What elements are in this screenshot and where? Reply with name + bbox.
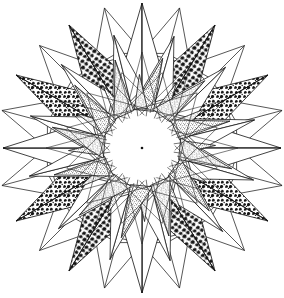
center-dot: [141, 147, 144, 150]
polyhedron-drawing: Stellated polyhedron compound Line drawi…: [0, 0, 284, 298]
figure-root: Stellated polyhedron compound Line drawi…: [0, 0, 284, 298]
